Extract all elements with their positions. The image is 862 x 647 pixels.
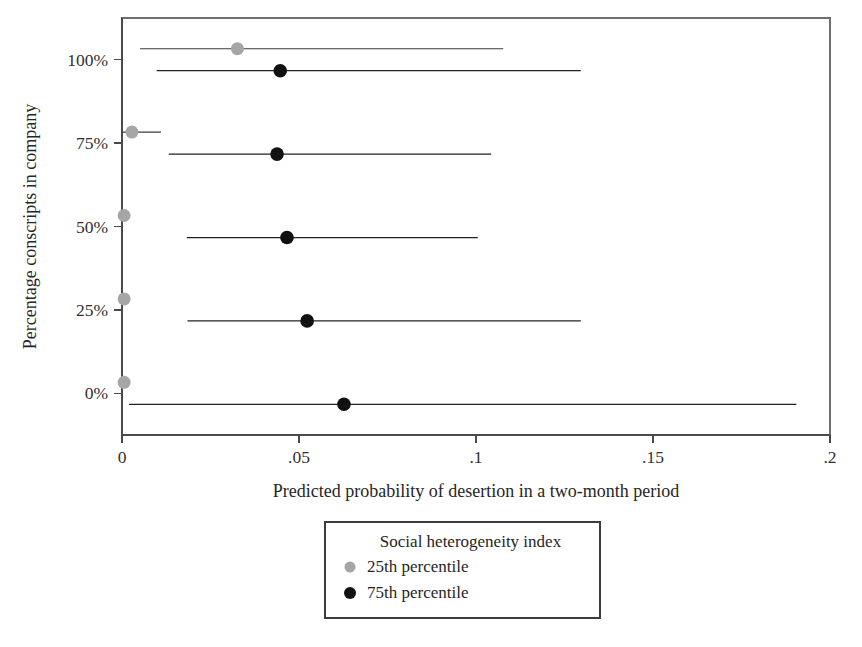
data-point-low-3[interactable] [118, 292, 131, 305]
legend-label-low: 25th percentile [367, 557, 469, 576]
y-tick-label-0: 0% [85, 383, 108, 403]
data-point-high-4[interactable] [337, 398, 351, 412]
data-point-high-2[interactable] [280, 231, 294, 245]
dot-and-whisker-chart: 0.05.1.15.2 0%25%50%75%100% Predicted pr… [0, 0, 862, 647]
y-axis-tick-labels: 0%25%50%75%100% [67, 50, 108, 404]
data-point-low-4[interactable] [118, 376, 131, 389]
data-series-group [118, 42, 797, 411]
legend-marker-high [344, 587, 356, 599]
y-tick-label-3: 75% [76, 133, 108, 153]
x-tick-label-3: .15 [642, 447, 664, 467]
y-tick-label-2: 50% [76, 217, 108, 237]
chart-legend: Social heterogeneity index 25th percenti… [325, 522, 600, 618]
y-tick-label-1: 25% [76, 300, 108, 320]
data-point-high-0[interactable] [273, 64, 287, 78]
plot-frame-path [122, 18, 830, 435]
legend-marker-low [345, 562, 356, 573]
y-tick-label-4: 100% [67, 50, 108, 70]
x-tick-label-0: 0 [118, 447, 127, 467]
data-point-high-1[interactable] [270, 147, 284, 161]
x-axis-tick-labels: 0.05.1.15.2 [118, 447, 837, 467]
plot-frame [122, 18, 830, 435]
x-tick-label-4: .2 [823, 447, 836, 467]
legend-title: Social heterogeneity index [380, 532, 562, 551]
figure-container: 0.05.1.15.2 0%25%50%75%100% Predicted pr… [0, 0, 862, 647]
y-axis-title: Percentage conscripts in company [20, 104, 40, 349]
data-point-low-0[interactable] [231, 42, 244, 55]
y-axis-ticks [114, 60, 122, 394]
x-axis-title: Predicted probability of desertion in a … [273, 481, 679, 501]
x-tick-label-1: .05 [288, 447, 310, 467]
x-tick-label-2: .1 [469, 447, 482, 467]
data-point-high-3[interactable] [300, 314, 314, 328]
data-point-low-1[interactable] [125, 126, 138, 139]
legend-label-high: 75th percentile [367, 583, 469, 602]
x-axis-ticks [122, 435, 830, 443]
data-point-low-2[interactable] [118, 209, 131, 222]
